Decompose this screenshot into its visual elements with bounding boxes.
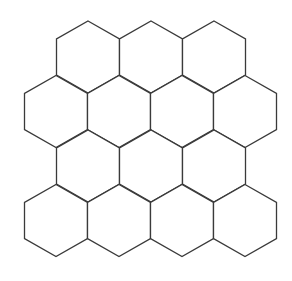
honeycomb-grid-svg	[0, 0, 292, 281]
honeycomb-figure	[0, 0, 292, 281]
hexagon-cell-layer	[25, 21, 277, 257]
